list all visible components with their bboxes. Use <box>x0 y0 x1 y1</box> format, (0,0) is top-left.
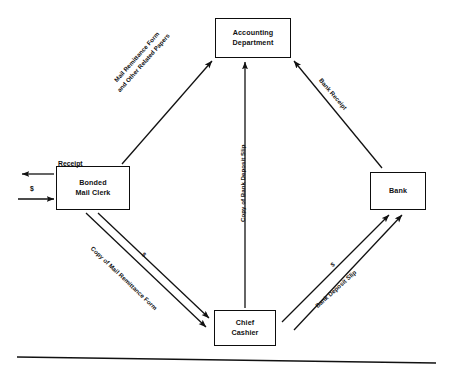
node-bonded-mail-clerk-label: Bonded Mail Clerk <box>76 178 111 199</box>
node-chief-cashier[interactable]: Chief Cashier <box>214 310 276 346</box>
node-accounting-department[interactable]: Accounting Department <box>215 18 291 58</box>
node-accounting-department-label: Accounting Department <box>233 28 274 49</box>
node-bank-label: Bank <box>389 186 407 196</box>
edge-label-copy-of-bank-deposit-slip: Copy of Bank Deposit Slip <box>238 145 247 222</box>
flow-label-receipt: Receipt <box>58 160 83 167</box>
node-bonded-mail-clerk[interactable]: Bonded Mail Clerk <box>56 166 130 210</box>
flow-label-cash-in: $ <box>30 185 34 192</box>
node-chief-cashier-label: Chief Cashier <box>231 318 258 339</box>
edge-clerk-to-cashier-form <box>86 213 206 327</box>
edge-cashier-to-bank-cash <box>282 215 389 322</box>
edge-bank-to-accounting <box>294 61 382 168</box>
node-bank[interactable]: Bank <box>370 172 426 210</box>
bottom-divider <box>17 357 436 363</box>
